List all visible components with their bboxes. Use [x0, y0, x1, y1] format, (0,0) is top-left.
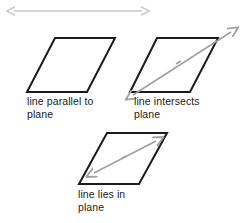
caption-line-parallel-to-plane: line parallel to plane	[27, 95, 131, 121]
caption-line-lies-in-plane: line lies in plane	[78, 188, 182, 214]
intersecting-line-arrow	[133, 32, 231, 95]
geometry-diagram: line parallel to plane line intersects p…	[0, 0, 247, 223]
intersecting-line-midtick	[176, 61, 181, 64]
plane-parallel	[27, 38, 115, 92]
caption-line-intersects-plane: line intersects plane	[134, 95, 242, 121]
plane-intersects	[130, 38, 218, 92]
contained-line-midtick	[122, 156, 127, 158]
